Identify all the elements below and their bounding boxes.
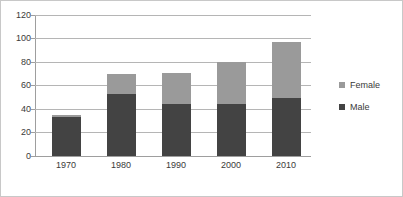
x-tick-label-1980: 1980 [99, 159, 143, 171]
legend-swatch-male-icon [339, 104, 345, 110]
x-tick-label-2000: 2000 [209, 159, 253, 171]
x-tick-label-2010: 2010 [264, 159, 308, 171]
y-tick-label: 120 [5, 11, 31, 20]
bar-segment-female[interactable] [107, 74, 136, 94]
gridline-120 [35, 15, 311, 16]
bar-segment-male[interactable] [217, 104, 246, 156]
gridline-80 [35, 62, 311, 63]
bar-segment-male[interactable] [162, 104, 191, 156]
legend-swatch-female-icon [339, 82, 345, 88]
bar-segment-male[interactable] [52, 117, 81, 156]
plot-area [35, 15, 311, 156]
y-tick-label: 20 [5, 128, 31, 137]
y-tick-label: 40 [5, 105, 31, 114]
gridline-0-baseline [35, 156, 311, 157]
x-tick-label-1990: 1990 [154, 159, 198, 171]
legend-label-female: Female [350, 80, 380, 90]
y-tick-label: 0 [5, 152, 31, 161]
gridline-100 [35, 38, 311, 39]
y-axis-tick-labels: 120 100 80 60 40 20 0 [1, 1, 31, 197]
y-tick-label: 60 [5, 81, 31, 90]
bar-segment-female[interactable] [272, 42, 301, 98]
bar-segment-male[interactable] [107, 94, 136, 156]
x-axis-tick-labels: 1970 1980 1990 2000 2010 [35, 159, 311, 175]
x-tick-label-1970: 1970 [44, 159, 88, 171]
legend-item-male[interactable]: Male [339, 99, 399, 115]
bar-segment-male[interactable] [272, 98, 301, 156]
y-tick-label: 100 [5, 34, 31, 43]
bar-segment-female[interactable] [162, 73, 191, 105]
chart-legend: Female Male [339, 77, 399, 121]
y-tick-label: 80 [5, 58, 31, 67]
legend-label-male: Male [350, 102, 370, 112]
legend-item-female[interactable]: Female [339, 77, 399, 93]
stacked-bar-chart: 120 100 80 60 40 20 0 [0, 0, 403, 197]
bar-segment-female[interactable] [217, 62, 246, 104]
